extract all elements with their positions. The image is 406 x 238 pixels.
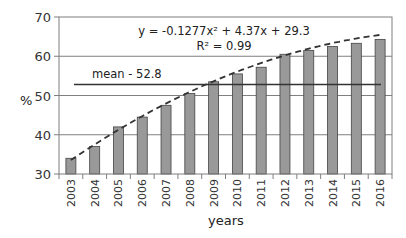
trendline-equation: y = -0.1277x² + 4.37x + 29.3: [138, 24, 309, 38]
bar-2007: [161, 105, 171, 174]
bar-2011: [256, 67, 266, 174]
y-tick-label: 70: [34, 10, 51, 25]
x-tick-label: 2004: [89, 179, 102, 207]
x-tick-label: 2006: [136, 179, 149, 207]
y-tick-label: 40: [34, 128, 51, 143]
x-tick-label: 2007: [160, 179, 173, 207]
bar-2005: [113, 127, 123, 174]
bar-chart: 3040506070mean - 52.82003200420052006200…: [0, 0, 406, 238]
bar-2004: [90, 147, 100, 174]
bar-2010: [232, 74, 242, 174]
bar-2013: [304, 50, 314, 174]
bar-2016: [375, 39, 385, 174]
x-tick-label: 2012: [279, 179, 292, 207]
x-tick-label: 2005: [112, 179, 125, 207]
x-tick-label: 2016: [374, 179, 387, 207]
x-axis-label: years: [208, 213, 244, 228]
y-tick-label: 30: [34, 167, 51, 182]
y-axis-label: %: [20, 93, 32, 108]
bar-2012: [280, 54, 290, 174]
x-tick-label: 2011: [255, 179, 268, 207]
x-tick-label: 2010: [231, 179, 244, 207]
r-squared-label: R² = 0.99: [196, 39, 251, 53]
bar-2006: [137, 117, 147, 174]
x-tick-label: 2008: [184, 179, 197, 207]
x-tick-label: 2015: [350, 179, 363, 207]
x-tick-label: 2014: [327, 179, 340, 207]
y-tick-label: 50: [34, 89, 51, 104]
x-tick-label: 2009: [208, 179, 221, 207]
mean-label: mean - 52.8: [92, 67, 162, 81]
x-tick-label: 2013: [303, 179, 316, 207]
bar-2009: [209, 82, 219, 174]
bar-2015: [351, 43, 361, 174]
bar-2003: [66, 158, 76, 174]
x-tick-label: 2003: [65, 179, 78, 207]
y-tick-label: 60: [34, 49, 51, 64]
bar-2014: [328, 46, 338, 174]
bar-2008: [185, 94, 195, 174]
